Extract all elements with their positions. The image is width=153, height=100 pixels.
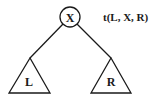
right-subtree-label: R bbox=[107, 75, 116, 89]
right-edge bbox=[77, 24, 111, 58]
tree-diagram: X L R t(L, X, R) bbox=[0, 0, 153, 100]
left-subtree-label: L bbox=[25, 75, 33, 89]
left-edge bbox=[30, 24, 63, 58]
root-label: X bbox=[66, 11, 75, 25]
tree-notation: t(L, X, R) bbox=[103, 11, 149, 24]
